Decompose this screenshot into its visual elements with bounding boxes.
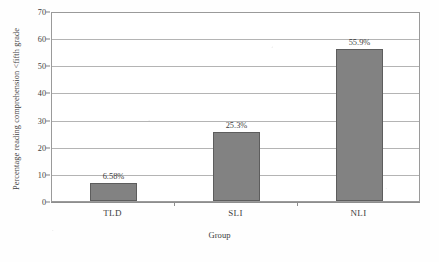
- x-axis-tick-mark: [174, 202, 175, 206]
- y-axis-tick-mark: [46, 202, 50, 203]
- bar-tld[interactable]: [90, 183, 137, 201]
- y-axis-tick-mark: [46, 12, 50, 13]
- y-axis-tick-mark: [46, 93, 50, 94]
- y-axis-title-container: Percentage reading comprehension <fifth …: [8, 6, 24, 212]
- y-axis-tick-label: 10: [38, 170, 46, 179]
- bar-value-label: 6.58%: [103, 172, 125, 181]
- bar-group[interactable]: 55.9%: [336, 11, 383, 201]
- x-axis-category-sli: SLI: [228, 208, 242, 218]
- y-axis-tick-label: 70: [38, 8, 46, 17]
- plot-area: 6.58%25.3%55.9%: [51, 12, 420, 202]
- bar-sli[interactable]: [213, 132, 260, 201]
- bar-value-label: 55.9%: [349, 38, 371, 47]
- bar-nli[interactable]: [336, 49, 383, 201]
- x-axis-tick-mark: [297, 202, 298, 206]
- x-axis-line: [51, 202, 420, 203]
- y-axis-tick-mark: [46, 174, 50, 175]
- y-axis-tick-mark: [46, 147, 50, 148]
- y-axis-tick-label: 60: [38, 35, 46, 44]
- bar-chart-figure: Percentage reading comprehension <fifth …: [0, 0, 439, 262]
- bar-group[interactable]: 25.3%: [213, 11, 260, 201]
- bar-group[interactable]: 6.58%: [90, 11, 137, 201]
- bar-value-label: 25.3%: [226, 121, 248, 130]
- y-axis-title: Percentage reading comprehension <fifth …: [12, 28, 21, 190]
- y-axis-tick-label: 50: [38, 62, 46, 71]
- y-axis-ticks: 010203040506070: [24, 12, 46, 202]
- y-axis-tick-mark: [46, 66, 50, 67]
- y-axis-tick-mark: [46, 120, 50, 121]
- y-axis-tick-label: 20: [38, 143, 46, 152]
- bar-series: 6.58%25.3%55.9%: [52, 13, 419, 201]
- y-axis-tick-mark: [46, 39, 50, 40]
- y-axis-tick-label: 30: [38, 116, 46, 125]
- x-axis-category-nli: NLI: [351, 208, 367, 218]
- x-axis-category-tld: TLD: [103, 208, 121, 218]
- x-axis-title: Group: [0, 230, 439, 240]
- y-axis-tick-label: 40: [38, 89, 46, 98]
